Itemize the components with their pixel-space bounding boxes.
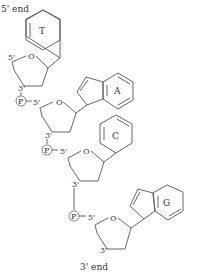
- three-prime-label: 3': [18, 84, 25, 93]
- phosphate-3: P: [69, 211, 79, 221]
- dna-strand-diagram: 5' end O 5' 3' T P 5: [0, 0, 200, 274]
- base-label-c: C: [112, 131, 119, 141]
- base-label-g: G: [163, 198, 170, 208]
- sugar-ring-4: 5' O 3': [88, 213, 131, 255]
- base-label-t: T: [39, 26, 45, 36]
- three-prime-end-label: 3' end: [80, 262, 108, 272]
- nucleotide-4: 5' O 3' G: [88, 185, 183, 255]
- three-prime-label: 3': [45, 131, 52, 140]
- three-prime-label: 3': [100, 246, 107, 255]
- sugar-ring-1: O 5' 3': [8, 52, 48, 93]
- three-prime-label: 3': [72, 180, 79, 189]
- phosphate-label: P: [44, 146, 50, 155]
- five-prime-label: 5': [88, 213, 95, 222]
- base-ring-c: C: [100, 115, 132, 153]
- five-prime-end-label: 5' end: [1, 4, 29, 14]
- phosphate-label: P: [71, 212, 77, 221]
- phosphate-label: P: [18, 97, 24, 106]
- five-prime-label: 5': [33, 98, 40, 107]
- five-prime-label: 5': [8, 53, 15, 62]
- base-label-a: A: [113, 86, 121, 96]
- sugar-oxygen-label: O: [56, 98, 63, 107]
- nucleotide-3: 5' O 3' C: [60, 115, 132, 189]
- sugar-oxygen-label: O: [28, 52, 35, 61]
- nucleotide-1: O 5' 3' T: [8, 10, 60, 93]
- sugar-oxygen-label: O: [110, 214, 117, 223]
- sugar-ring-3: 5' O 3': [60, 147, 104, 189]
- base-ring-g: G: [130, 185, 183, 220]
- base-ring-a: A: [77, 73, 133, 109]
- nucleotide-2: 5' O 3' A: [33, 73, 133, 140]
- base-ring-t: T: [26, 10, 60, 58]
- phosphate-2: P: [42, 145, 52, 155]
- phosphate-1: P: [16, 96, 26, 106]
- five-prime-label: 5': [60, 147, 67, 156]
- sugar-ring-2: 5' O 3': [33, 98, 76, 140]
- sugar-oxygen-label: O: [83, 147, 90, 156]
